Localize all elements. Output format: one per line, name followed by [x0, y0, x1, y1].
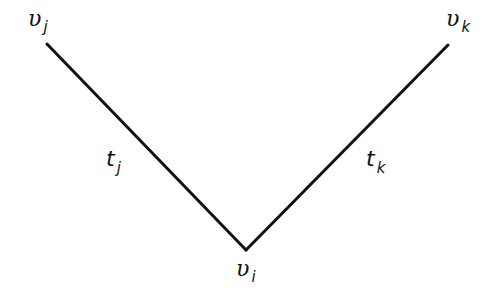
edge-subscript: k: [377, 159, 386, 177]
node-symbol: υ: [28, 6, 41, 31]
node-label-vi: υi: [236, 258, 256, 280]
node-label-vj: υj: [28, 8, 48, 30]
edge-symbol: t: [366, 146, 375, 171]
edge-subscript: j: [117, 159, 121, 177]
edge-label-tk: tk: [366, 148, 385, 170]
edge-vi-vk: [246, 45, 448, 250]
edge-label-tj: tj: [106, 148, 121, 170]
node-subscript: i: [251, 268, 255, 286]
node-symbol: υ: [446, 6, 459, 31]
edge-symbol: t: [106, 146, 115, 171]
edge-vj-vi: [47, 44, 246, 250]
node-subscript: k: [461, 18, 470, 36]
node-label-vk: υk: [446, 8, 470, 30]
node-symbol: υ: [236, 256, 249, 281]
diagram-canvas: [0, 0, 492, 297]
node-subscript: j: [43, 18, 47, 36]
